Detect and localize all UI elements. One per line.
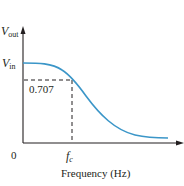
- origin-label: 0: [11, 149, 17, 161]
- x-axis-title: Frequency (Hz): [61, 167, 131, 180]
- frequency-response-chart: Vout Vin 0.707 0 fc Frequency (Hz): [0, 0, 184, 186]
- level-label: 0.707: [29, 83, 54, 95]
- y-axis-label: Vout: [1, 24, 19, 39]
- cutoff-frequency-label: fc: [66, 149, 73, 164]
- response-curve: [23, 63, 168, 138]
- y-axis-arrow-icon: [21, 26, 26, 34]
- vin-label: Vin: [2, 56, 16, 71]
- x-axis-arrow-icon: [176, 141, 184, 146]
